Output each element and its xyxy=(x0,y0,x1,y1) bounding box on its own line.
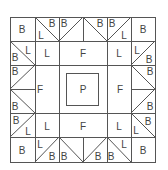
label-bottom-right-tri-l: L xyxy=(121,139,127,150)
label-bottom-center-f: F xyxy=(80,121,86,132)
label-left-bottom-tri-b: B xyxy=(13,115,20,126)
label-bottom-left-tri-l: L xyxy=(37,139,43,150)
label-top-left-tri-l: L xyxy=(38,30,44,41)
label-br-corner: B xyxy=(140,145,147,156)
label-left-f: F xyxy=(37,84,43,95)
label-top-right-tri-l: L xyxy=(121,30,127,41)
label-bottom-right-tri-b: B xyxy=(108,151,115,162)
label-top-center-f: F xyxy=(80,48,86,59)
label-tl-corner: B xyxy=(19,24,26,35)
label-right-bottom-tri-b: B xyxy=(145,116,152,127)
label-right-upper-b: B xyxy=(147,66,154,77)
label-left-bottom-tri-l: L xyxy=(25,126,31,137)
label-left-upper-b: B xyxy=(12,66,19,77)
label-inner-bl-l: L xyxy=(44,121,50,132)
label-top-mid-b2: B xyxy=(97,18,104,29)
label-top-left-tri-b: B xyxy=(49,18,56,29)
label-bottom-left-tri-b: B xyxy=(49,151,56,162)
label-left-top-tri-b: B xyxy=(12,52,19,63)
label-top-right-tri-b: B xyxy=(109,18,116,29)
quilt-block-diagram: B L B B B B L B B L L F L L B B B F P F … xyxy=(0,0,168,170)
label-bottom-mid-b2: B xyxy=(95,151,102,162)
label-inner-tr-l: L xyxy=(116,48,122,59)
label-top-mid-b1: B xyxy=(61,18,68,29)
label-center-p: P xyxy=(80,84,87,95)
label-tr-corner: B xyxy=(140,24,147,35)
label-bottom-mid-b1: B xyxy=(61,151,68,162)
label-right-top-tri-b: B xyxy=(146,54,153,65)
label-right-lower-b: B xyxy=(147,101,154,112)
label-right-top-tri-l: L xyxy=(134,45,140,56)
label-right-bottom-tri-l: L xyxy=(133,125,139,136)
label-left-top-tri-l: L xyxy=(25,45,31,56)
label-right-f: F xyxy=(117,84,123,95)
label-bl-corner: B xyxy=(19,145,26,156)
label-inner-br-l: L xyxy=(116,121,122,132)
label-inner-tl-l: L xyxy=(44,48,50,59)
label-left-lower-b: B xyxy=(12,101,19,112)
